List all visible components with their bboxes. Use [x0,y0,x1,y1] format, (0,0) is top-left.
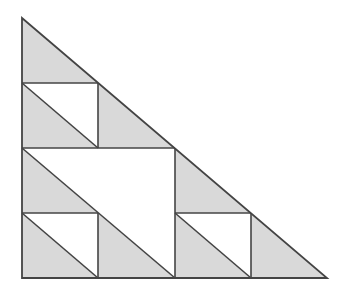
sierpinski-triangle-diagram [0,0,346,297]
